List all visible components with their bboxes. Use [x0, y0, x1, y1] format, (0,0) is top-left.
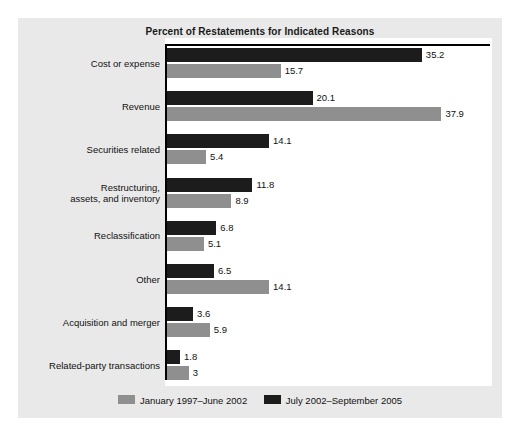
- bar-row: 37.9: [167, 107, 487, 121]
- bar-earlier[interactable]: [167, 107, 441, 121]
- bar-recent[interactable]: [167, 264, 214, 278]
- bar-value-earlier: 5.9: [214, 324, 227, 335]
- bar-value-recent: 3.6: [197, 308, 210, 319]
- legend-item-recent[interactable]: July 2002–September 2005: [264, 394, 402, 406]
- category-label-line: assets, and inventory: [10, 193, 160, 204]
- bar-value-recent: 20.1: [317, 92, 336, 103]
- bar-row: 3.6: [167, 307, 487, 321]
- bar-recent[interactable]: [167, 221, 216, 235]
- bar-earlier[interactable]: [167, 366, 189, 380]
- bar-row: 5.1: [167, 237, 487, 251]
- bar-value-earlier: 37.9: [445, 108, 464, 119]
- bar-earlier[interactable]: [167, 323, 210, 337]
- bar-row: 6.5: [167, 264, 487, 278]
- bar-value-recent: 1.8: [184, 351, 197, 362]
- category-label-line: Reclassification: [10, 230, 160, 241]
- category-label-line: Other: [10, 274, 160, 285]
- category-label: Cost or expense: [10, 58, 160, 69]
- bar-value-earlier: 5.1: [208, 238, 221, 249]
- category-label-line: Restructuring,: [10, 182, 160, 193]
- category-label: Reclassification: [10, 230, 160, 241]
- chart-figure: Percent of Restatements for Indicated Re…: [18, 18, 502, 418]
- bar-row: 35.2: [167, 48, 487, 62]
- bar-earlier[interactable]: [167, 150, 206, 164]
- bar-recent[interactable]: [167, 48, 422, 62]
- bar-value-earlier: 14.1: [273, 281, 292, 292]
- legend-label-recent: July 2002–September 2005: [286, 395, 402, 406]
- plot-area: 35.215.720.137.914.15.411.88.96.85.16.51…: [165, 38, 492, 386]
- bar-value-earlier: 8.9: [235, 195, 248, 206]
- bar-recent[interactable]: [167, 134, 269, 148]
- bar-row: 14.1: [167, 280, 487, 294]
- bar-value-earlier: 3: [193, 367, 198, 378]
- category-label: Revenue: [10, 101, 160, 112]
- bar-value-recent: 6.5: [218, 265, 231, 276]
- category-label-line: Cost or expense: [10, 58, 160, 69]
- bar-row: 15.7: [167, 64, 487, 78]
- bar-row: 6.8: [167, 221, 487, 235]
- category-label: Restructuring,assets, and inventory: [10, 182, 160, 204]
- bar-recent[interactable]: [167, 350, 180, 364]
- category-label-line: Securities related: [10, 144, 160, 155]
- category-label: Related-party transactions: [10, 360, 160, 371]
- legend-swatch-recent-icon: [264, 395, 281, 404]
- bar-row: 14.1: [167, 134, 487, 148]
- legend-swatch-earlier-icon: [118, 395, 135, 404]
- bar-value-recent: 6.8: [220, 222, 233, 233]
- axis-top-rule: [165, 44, 490, 46]
- bar-row: 8.9: [167, 194, 487, 208]
- bar-row: 11.8: [167, 178, 487, 192]
- legend-label-earlier: January 1997–June 2002: [140, 395, 247, 406]
- bar-value-recent: 14.1: [273, 135, 292, 146]
- category-label: Securities related: [10, 144, 160, 155]
- bar-value-earlier: 15.7: [285, 65, 304, 76]
- bar-row: 5.4: [167, 150, 487, 164]
- bar-earlier[interactable]: [167, 194, 231, 208]
- chart-title: Percent of Restatements for Indicated Re…: [18, 26, 502, 37]
- bar-value-earlier: 5.4: [210, 151, 223, 162]
- category-label-line: Revenue: [10, 101, 160, 112]
- bar-row: 5.9: [167, 323, 487, 337]
- bar-row: 1.8: [167, 350, 487, 364]
- bar-row: 3: [167, 366, 487, 380]
- bar-earlier[interactable]: [167, 237, 204, 251]
- bar-recent[interactable]: [167, 307, 193, 321]
- bar-recent[interactable]: [167, 178, 252, 192]
- bar-value-recent: 35.2: [426, 49, 445, 60]
- bar-value-recent: 11.8: [256, 179, 274, 190]
- bar-recent[interactable]: [167, 91, 313, 105]
- legend-item-earlier[interactable]: January 1997–June 2002: [118, 394, 247, 406]
- bar-earlier[interactable]: [167, 280, 269, 294]
- category-label-line: Acquisition and merger: [10, 317, 160, 328]
- chart-legend: January 1997–June 2002 July 2002–Septemb…: [18, 394, 502, 406]
- bar-earlier[interactable]: [167, 64, 281, 78]
- category-label: Other: [10, 274, 160, 285]
- bar-row: 20.1: [167, 91, 487, 105]
- category-label: Acquisition and merger: [10, 317, 160, 328]
- category-label-line: Related-party transactions: [10, 360, 160, 371]
